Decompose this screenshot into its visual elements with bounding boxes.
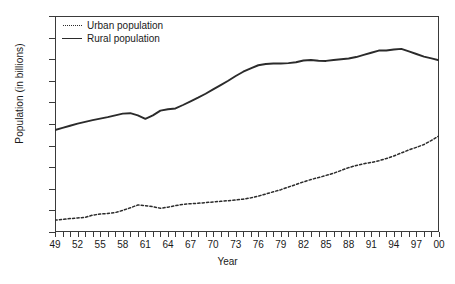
x-tick-mark: [191, 232, 192, 237]
x-tick-mark: [160, 232, 161, 237]
x-tick-mark: [349, 232, 350, 237]
series-svg: [55, 16, 439, 232]
x-tick-mark: [63, 232, 64, 237]
x-tick-mark: [78, 232, 79, 237]
x-tick-mark: [123, 232, 124, 237]
x-tick-mark: [288, 232, 289, 237]
x-tick-mark: [371, 232, 372, 237]
solid-line-sample-icon: [62, 35, 82, 43]
x-tick-mark: [424, 232, 425, 237]
x-tick-mark: [334, 232, 335, 237]
legend-item-rural: Rural population: [62, 32, 163, 45]
x-tick-mark: [356, 232, 357, 237]
x-tick-mark: [364, 232, 365, 237]
x-tick-mark: [303, 232, 304, 237]
x-tick-mark: [379, 232, 380, 237]
x-tick-mark: [439, 232, 440, 237]
x-tick-mark: [281, 232, 282, 237]
x-tick-mark: [130, 232, 131, 237]
x-tick-mark: [243, 232, 244, 237]
x-tick-mark: [386, 232, 387, 237]
x-tick-mark: [108, 232, 109, 237]
x-tick-mark: [251, 232, 252, 237]
x-tick-mark: [326, 232, 327, 237]
x-tick-mark: [85, 232, 86, 237]
x-tick-mark: [236, 232, 237, 237]
x-tick-mark: [228, 232, 229, 237]
figure-caption: [4, 272, 452, 282]
urban-population-line: [55, 136, 439, 220]
x-tick-mark: [409, 232, 410, 237]
x-tick-mark: [266, 232, 267, 237]
x-tick-mark: [258, 232, 259, 237]
x-tick-mark: [311, 232, 312, 237]
rural-population-line: [55, 49, 439, 130]
x-tick-mark: [296, 232, 297, 237]
dotted-line-sample-icon: [62, 22, 82, 30]
x-tick-mark: [138, 232, 139, 237]
x-tick-mark: [401, 232, 402, 237]
x-tick-mark: [168, 232, 169, 237]
y-axis-label: Population (in billions): [14, 4, 25, 184]
x-tick-mark: [70, 232, 71, 237]
x-tick-mark: [394, 232, 395, 237]
x-tick-label: 00: [424, 239, 454, 250]
legend-label-urban: Urban population: [87, 20, 163, 31]
x-tick-mark: [153, 232, 154, 237]
x-tick-mark: [175, 232, 176, 237]
legend-item-urban: Urban population: [62, 19, 163, 32]
x-tick-mark: [416, 232, 417, 237]
x-tick-mark: [115, 232, 116, 237]
x-tick-mark: [273, 232, 274, 237]
x-tick-mark: [206, 232, 207, 237]
x-tick-mark: [145, 232, 146, 237]
x-tick-mark: [221, 232, 222, 237]
x-tick-mark: [93, 232, 94, 237]
x-tick-mark: [213, 232, 214, 237]
x-axis-label: Year: [0, 256, 455, 267]
chart-figure: Population (in billions) 10.90.80.70.60.…: [0, 0, 455, 284]
x-tick-mark: [198, 232, 199, 237]
chart-legend: Urban population Rural population: [62, 19, 163, 45]
legend-label-rural: Rural population: [87, 33, 160, 44]
plot-lines-layer: [55, 16, 439, 232]
x-tick-mark: [319, 232, 320, 237]
x-tick-mark: [183, 232, 184, 237]
x-tick-mark: [431, 232, 432, 237]
x-tick-mark: [55, 232, 56, 237]
x-tick-mark: [100, 232, 101, 237]
x-tick-mark: [341, 232, 342, 237]
